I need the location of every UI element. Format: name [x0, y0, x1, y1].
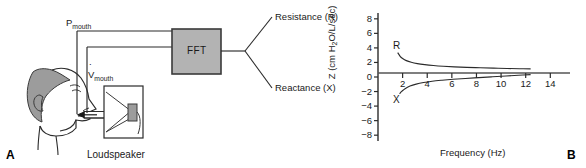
branch-reactance [245, 51, 272, 88]
panel-a-drawing [0, 0, 300, 168]
neck-outline-back [38, 126, 40, 150]
x-tick-label: 14 [541, 79, 559, 89]
y-axis-title: Z (cm H2O/L/sec) [326, 0, 339, 102]
x-tick-label: 8 [467, 79, 485, 89]
x-tick-label: 6 [443, 79, 461, 89]
y-tick-label: −8 [356, 130, 372, 140]
series-annotation-r: R [393, 41, 400, 51]
figure-root: Pmouth Vmouth FFT Resistance (R) Reactan… [0, 0, 586, 168]
panel-a-apparatus-diagram: Pmouth Vmouth FFT Resistance (R) Reactan… [0, 0, 300, 168]
v-mouth-label: Vmouth [88, 70, 113, 83]
loudspeaker-enclosure [104, 86, 143, 138]
y-tick-label: −4 [356, 101, 372, 111]
series-annotation-x: X [393, 95, 400, 105]
branch-resistance [245, 17, 272, 51]
p-mouth-label: Pmouth [66, 18, 91, 31]
nostril [83, 108, 89, 111]
y-tick-label: 6 [356, 28, 372, 38]
y-axis-title-pre: Z (cm H [326, 45, 337, 79]
x-tick-label: 12 [517, 79, 535, 89]
neck-outline [56, 136, 58, 155]
series-curve-resistance [398, 53, 531, 69]
x-tick-label: 4 [418, 79, 436, 89]
loudspeaker-caption: Loudspeaker [87, 150, 145, 160]
output-branches [221, 17, 272, 88]
panel-letter-a: A [6, 149, 15, 161]
panel-b-impedance-chart: 86420−2−4−6−8 2468101214 RX Z (cm H2O/L/… [300, 0, 586, 168]
y-axis-title-sub: 2 [331, 42, 338, 46]
y-axis-title-post: O/L/sec) [326, 6, 337, 42]
eyebrow [70, 85, 80, 87]
v-dot-accent: V [88, 70, 94, 80]
y-tick-label: −6 [356, 116, 372, 126]
v-mouth-subscript: mouth [94, 75, 113, 82]
hair-shape [27, 69, 70, 122]
jaw-outline [60, 120, 76, 131]
y-tick-label: −2 [356, 87, 372, 97]
x-tick-label: 10 [492, 79, 510, 89]
y-tick-label: 4 [356, 43, 372, 53]
speaker-driver [128, 104, 137, 121]
y-tick-label: 0 [356, 72, 372, 82]
panel-letter-b: B [567, 149, 576, 161]
p-mouth-subscript: mouth [72, 23, 91, 30]
x-axis-title: Frequency (Hz) [440, 148, 505, 158]
y-tick-label: 8 [356, 14, 372, 24]
x-tick-label: 2 [394, 79, 412, 89]
fft-box-label: FFT [187, 46, 207, 56]
y-tick-label: 2 [356, 57, 372, 67]
